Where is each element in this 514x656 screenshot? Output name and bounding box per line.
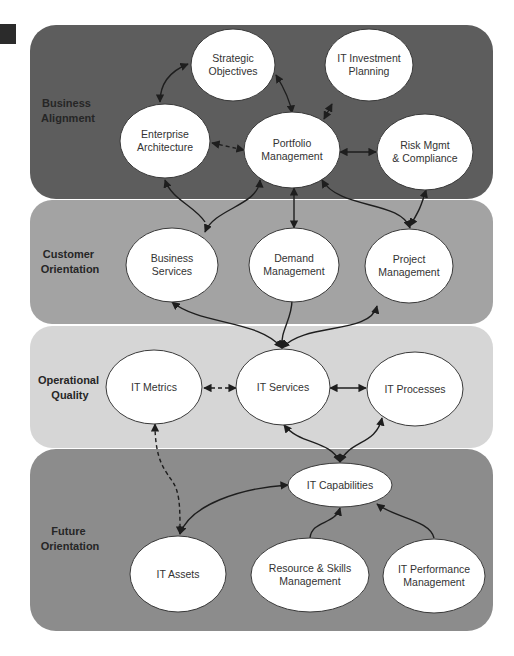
node-it-services[interactable]: IT Services xyxy=(236,349,330,425)
node-it-processes[interactable]: IT Processes xyxy=(367,352,463,426)
node-it-capabilities[interactable]: IT Capabilities xyxy=(288,463,392,507)
svg-text:Risk Mgmt& Compliance: Risk Mgmt& Compliance xyxy=(392,139,458,164)
node-it-performance-management[interactable]: IT PerformanceManagement xyxy=(383,539,485,613)
svg-text:IT Processes: IT Processes xyxy=(384,383,445,395)
svg-text:IT Metrics: IT Metrics xyxy=(131,381,177,393)
svg-text:IT PerformanceManagement: IT PerformanceManagement xyxy=(398,563,470,588)
node-business-services[interactable]: BusinessServices xyxy=(126,228,218,302)
node-demand-management[interactable]: DemandManagement xyxy=(249,228,339,302)
node-strategic-objectives[interactable]: StrategicObjectives xyxy=(191,29,275,101)
svg-text:IT Services: IT Services xyxy=(257,381,309,393)
svg-text:StrategicObjectives: StrategicObjectives xyxy=(208,52,257,77)
node-enterprise-architecture[interactable]: EnterpriseArchitecture xyxy=(120,104,210,178)
svg-text:Resource & SkillsManagement: Resource & SkillsManagement xyxy=(269,562,351,587)
node-it-investment-planning[interactable]: IT InvestmentPlanning xyxy=(325,29,413,101)
node-project-management[interactable]: ProjectManagement xyxy=(365,229,453,303)
node-portfolio-management[interactable]: PortfolioManagement xyxy=(244,112,340,188)
svg-text:IT Assets: IT Assets xyxy=(157,568,200,580)
svg-text:IT Capabilities: IT Capabilities xyxy=(307,479,373,491)
node-it-metrics[interactable]: IT Metrics xyxy=(106,350,202,424)
svg-text:BusinessServices: BusinessServices xyxy=(151,252,194,277)
node-risk-mgmt-compliance[interactable]: Risk Mgmt& Compliance xyxy=(377,114,473,190)
node-resource-skills-management[interactable]: Resource & SkillsManagement xyxy=(251,538,369,612)
node-it-assets[interactable]: IT Assets xyxy=(130,536,226,612)
svg-text:EnterpriseArchitecture: EnterpriseArchitecture xyxy=(137,128,193,153)
it-management-diagram: Business Alignment Customer Orientation … xyxy=(0,0,514,656)
